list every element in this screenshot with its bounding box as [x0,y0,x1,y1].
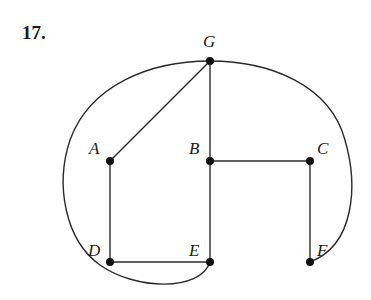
vertex-c [306,157,314,165]
label-a: A [88,139,100,158]
label-e: E [188,241,200,260]
label-b: B [189,139,200,158]
vertex-e [206,258,214,266]
edge-g-e-curve [63,61,210,284]
edges [63,61,351,284]
vertex-a [106,157,114,165]
vertex-labels: G A B C D E F [87,32,329,260]
vertex-f [306,258,314,266]
label-c: C [317,139,329,158]
label-g: G [203,32,215,51]
vertex-g [206,57,214,65]
vertex-b [206,157,214,165]
label-d: D [87,241,101,260]
vertex-d [106,258,114,266]
label-f: F [316,241,328,260]
graph-diagram: G A B C D E F [0,0,371,300]
